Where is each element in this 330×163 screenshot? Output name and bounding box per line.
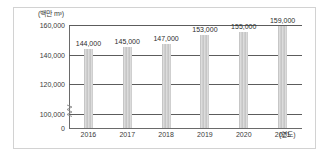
y-tick-label: 120,000 [40,81,69,88]
chart-figure: (백만 m³) 0100,000120,000140,000160,000 20… [0,0,330,163]
x-tick-label: 2018 [158,131,174,138]
bar-value-label: 145,000 [115,38,140,45]
bar [239,32,248,128]
bar-value-label: 153,000 [192,26,217,33]
bar-group [69,25,302,128]
bar-value-label: 144,000 [76,40,101,47]
bar [278,26,287,128]
bar-value-label: 147,000 [153,35,178,42]
y-tick-label: 100,000 [40,111,69,118]
y-axis-unit-label: (백만 m³) [38,8,64,18]
bar [123,47,132,128]
y-tick-label: 140,000 [40,51,69,58]
x-axis-line [69,128,302,129]
x-tick-label: 2016 [81,131,97,138]
x-tick-label: 2017 [119,131,135,138]
x-axis-caption: (연도) [279,131,296,138]
bar [84,49,93,128]
bar-value-label: 159,000 [270,17,295,24]
bar [200,35,209,128]
bar [162,44,171,128]
bar-value-label: 155,000 [231,23,256,30]
x-tick-label: 2019 [197,131,213,138]
y-tick-label: 160,000 [40,22,69,29]
x-tick-label: 2020 [236,131,252,138]
y-tick-label: 0 [61,125,69,132]
